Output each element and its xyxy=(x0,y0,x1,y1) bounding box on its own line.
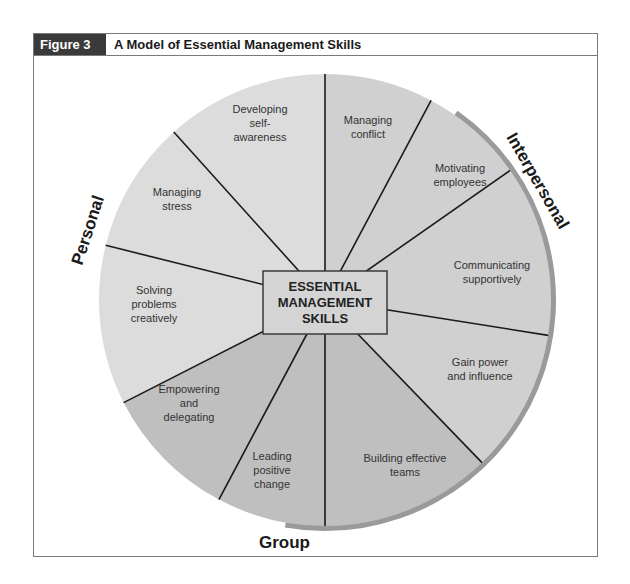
center-label-line: SKILLS xyxy=(302,311,349,326)
segment-label-line: and influence xyxy=(447,370,512,382)
segment-label-line: Managing xyxy=(153,186,201,198)
segment-label-line: creatively xyxy=(131,312,178,324)
segment-label-line: problems xyxy=(131,298,177,310)
center-label-line: ESSENTIAL xyxy=(289,279,362,294)
segment-label-line: supportively xyxy=(463,273,522,285)
segment-label-line: Building effective xyxy=(364,452,447,464)
segment-label-line: positive xyxy=(253,464,290,476)
segment-label-line: stress xyxy=(162,200,192,212)
segment-label-line: Motivating xyxy=(435,162,485,174)
segment-label-line: awareness xyxy=(233,131,287,143)
segment-label-line: employees xyxy=(433,176,487,188)
segment-label: Solvingproblemscreatively xyxy=(131,284,178,324)
segment-label-line: Leading xyxy=(252,450,291,462)
segment-label-line: Gain power xyxy=(452,356,509,368)
category-label-personal: Personal xyxy=(68,193,108,267)
segment-label-line: self- xyxy=(250,117,271,129)
segment-label-line: delegating xyxy=(164,411,215,423)
segment-label-line: Empowering xyxy=(158,383,219,395)
segment-label-line: Communicating xyxy=(454,259,530,271)
segment-label-line: Developing xyxy=(232,103,287,115)
segment-label-line: and xyxy=(180,397,198,409)
segment-label-line: Managing xyxy=(344,114,392,126)
segment-label-line: teams xyxy=(390,466,420,478)
segment-label: Leadingpositivechange xyxy=(252,450,291,490)
segment-label-line: Solving xyxy=(136,284,172,296)
segment-label-line: conflict xyxy=(351,128,385,140)
category-label-group: Group xyxy=(259,533,310,552)
center-label-line: MANAGEMENT xyxy=(278,295,373,310)
skills-wheel-diagram: ManagingconflictMotivatingemployeesCommu… xyxy=(0,0,630,584)
segment-label-line: change xyxy=(254,478,290,490)
